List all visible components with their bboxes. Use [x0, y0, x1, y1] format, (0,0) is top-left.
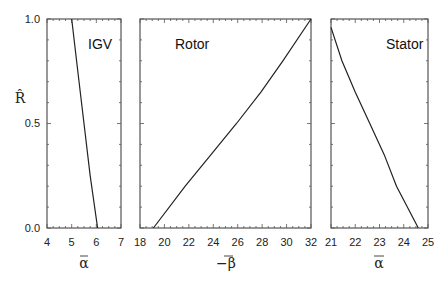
- x-tick-label: 23: [373, 236, 385, 248]
- rotor-ticks: [140, 19, 311, 228]
- figure: R̂ 1.0 0.5 0.0 IGV 4567 α Rotor 18202224…: [0, 0, 446, 282]
- rotor-frame: [140, 19, 311, 228]
- igv-title: IGV: [88, 36, 113, 52]
- x-tick-label: 21: [325, 236, 337, 248]
- x-tick-label: 25: [422, 236, 434, 248]
- y-tick-label: 0.5: [25, 117, 40, 129]
- x-tick-label: 5: [69, 236, 75, 248]
- x-tick-label: 4: [44, 236, 50, 248]
- x-tick-label: 28: [256, 236, 268, 248]
- rotor-x-axis-label: −β: [216, 255, 236, 271]
- rotor-title: Rotor: [175, 36, 210, 52]
- stator-panel: Stator 2122232425 α: [325, 19, 434, 271]
- igv-x-axis-label: α: [79, 255, 89, 271]
- stator-x-axis-label: α: [374, 255, 384, 271]
- x-tick-label: 18: [134, 236, 146, 248]
- x-tick-label: 6: [93, 236, 99, 248]
- rotor-x-tick-labels: 1820222426283032: [134, 236, 317, 248]
- x-tick-label: 26: [232, 236, 244, 248]
- x-tick-label: 32: [305, 236, 317, 248]
- x-tick-label: 24: [398, 236, 410, 248]
- igv-x-tick-labels: 4567: [44, 236, 124, 248]
- y-tick-label: 0.0: [25, 222, 40, 234]
- x-tick-label: 30: [280, 236, 292, 248]
- stator-x-tick-labels: 2122232425: [325, 236, 434, 248]
- igv-panel: IGV 4567 α: [44, 19, 124, 271]
- x-tick-label: 22: [349, 236, 361, 248]
- x-tick-label: 22: [183, 236, 195, 248]
- stator-title: Stator: [386, 36, 424, 52]
- stator-curve: [331, 27, 418, 228]
- x-tick-label: 24: [207, 236, 219, 248]
- y-tick-label: 1.0: [25, 13, 40, 25]
- x-tick-label: 7: [118, 236, 124, 248]
- x-tick-label: 20: [158, 236, 170, 248]
- y-axis-label: R̂: [15, 89, 26, 106]
- rotor-panel: Rotor 1820222426283032 −β: [134, 19, 317, 271]
